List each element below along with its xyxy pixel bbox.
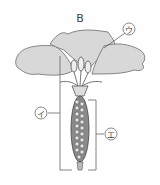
label-i: イ: [37, 110, 45, 119]
stalk: [77, 162, 83, 170]
receptacle: [72, 86, 88, 96]
figure-title: B: [76, 12, 84, 25]
label-e: エ: [107, 131, 115, 140]
flower-diagram: B イ: [0, 0, 160, 185]
label-u: ウ: [125, 26, 133, 35]
bracket-e: [88, 100, 104, 170]
